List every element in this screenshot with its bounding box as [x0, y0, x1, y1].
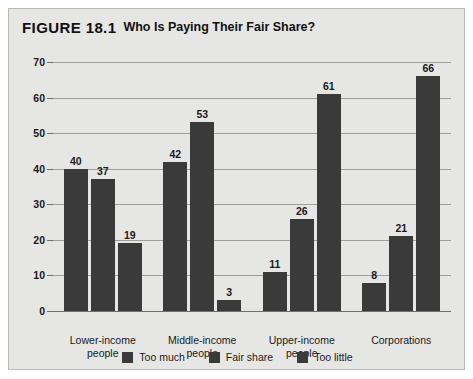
y-axis: 010203040506070 [13, 62, 45, 311]
y-axis-tick-label: 30 [19, 198, 45, 210]
bar-value-label: 26 [296, 205, 308, 217]
bar: 37 [91, 179, 115, 311]
bar-value-label: 61 [323, 80, 335, 92]
y-axis-tick-label: 40 [19, 163, 45, 175]
gridline [53, 169, 451, 170]
legend-item[interactable]: Too little [297, 351, 353, 363]
plot-area: 403719Lower-income people42533Middle-inc… [53, 62, 451, 311]
bar: 53 [190, 122, 214, 311]
gridline [53, 133, 451, 134]
y-axis-tick-label: 20 [19, 234, 45, 246]
bar: 61 [317, 94, 341, 311]
y-axis-tick-label: 60 [19, 92, 45, 104]
bar: 8 [362, 283, 386, 311]
bar-value-label: 40 [70, 155, 82, 167]
y-axis-tick-label: 0 [19, 305, 45, 317]
bar-value-label: 8 [371, 269, 377, 281]
bar-value-label: 53 [196, 108, 208, 120]
y-axis-tick-label: 70 [19, 56, 45, 68]
legend-label: Too little [314, 351, 353, 363]
bar-value-label: 37 [97, 165, 109, 177]
y-axis-tick-label: 50 [19, 127, 45, 139]
bar-value-label: 42 [169, 148, 181, 160]
gridline [53, 311, 451, 312]
chart-plot-wrapper: 010203040506070 403719Lower-income peopl… [9, 45, 466, 371]
legend-swatch-icon [297, 352, 308, 363]
bar: 42 [163, 162, 187, 311]
bar-value-label: 66 [422, 62, 434, 74]
bar-value-label: 11 [269, 258, 280, 270]
x-axis-category-label: Corporations [371, 334, 431, 347]
legend-item[interactable]: Fair share [209, 351, 273, 363]
figure-card: FIGURE 18.1 Who Is Paying Their Fair Sha… [8, 8, 465, 370]
legend-swatch-icon [209, 352, 220, 363]
gridline [53, 62, 451, 63]
bar: 66 [416, 76, 440, 311]
bar: 3 [217, 300, 241, 311]
bar: 19 [118, 243, 142, 311]
legend-label: Fair share [226, 351, 273, 363]
bar-value-label: 19 [124, 229, 136, 241]
bar: 11 [263, 272, 287, 311]
page-title: Who Is Paying Their Fair Share? [123, 20, 315, 34]
figure-number-label: FIGURE 18.1 [22, 19, 116, 36]
chart-legend: Too muchFair shareToo little [9, 351, 466, 363]
legend-item[interactable]: Too much [122, 351, 185, 363]
bar: 40 [64, 169, 88, 311]
bar-value-label: 21 [395, 222, 407, 234]
bar-value-label: 3 [226, 286, 232, 298]
bar: 26 [290, 219, 314, 311]
bar: 21 [389, 236, 413, 311]
legend-label: Too much [139, 351, 185, 363]
y-axis-tick-label: 10 [19, 269, 45, 281]
figure-title-bar: FIGURE 18.1 Who Is Paying Their Fair Sha… [9, 9, 464, 45]
gridline [53, 98, 451, 99]
legend-swatch-icon [122, 352, 133, 363]
